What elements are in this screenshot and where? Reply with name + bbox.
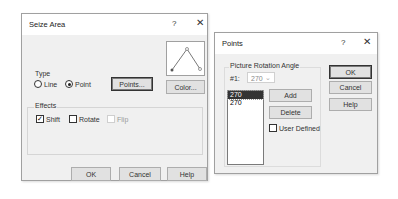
effects-group-label: Effects <box>34 102 57 109</box>
seize-area-dialog: Seize Area ? ✕ Type Line Point Points...… <box>21 13 208 181</box>
line-shape-preview-icon <box>167 42 204 75</box>
user-defined-checkbox[interactable] <box>269 124 277 132</box>
shape-preview <box>166 41 205 76</box>
help-button[interactable]: Help <box>329 98 372 111</box>
ok-button[interactable]: OK <box>71 167 111 181</box>
shift-checkbox[interactable]: ✓ <box>36 115 44 123</box>
flip-checkbox <box>107 115 115 123</box>
rotate-checkbox[interactable] <box>69 115 77 123</box>
angle-combobox[interactable]: 270 ⌄ <box>247 72 275 83</box>
close-icon[interactable]: ✕ <box>363 36 371 47</box>
point-radio[interactable] <box>65 80 73 88</box>
line-radio-label[interactable]: Line <box>44 81 57 88</box>
flip-checkbox-label: Flip <box>117 116 128 123</box>
seize-area-title: Seize Area <box>29 20 65 29</box>
rotation-angle-group-label: Picture Rotation Angle <box>229 62 300 69</box>
points-dialog: Points ? ✕ Picture Rotation Angle #1: 27… <box>214 32 378 174</box>
rotate-checkbox-label[interactable]: Rotate <box>79 116 100 123</box>
index-label: #1: <box>230 75 240 82</box>
effects-group <box>27 107 203 155</box>
list-item[interactable]: 270 <box>228 91 263 99</box>
chevron-down-icon[interactable]: ⌄ <box>265 74 271 82</box>
help-button[interactable]: Help <box>167 167 207 181</box>
user-defined-label[interactable]: User Defined <box>279 125 320 132</box>
help-icon[interactable]: ? <box>172 19 176 28</box>
points-title: Points <box>222 39 243 48</box>
angle-listbox[interactable]: 270 270 <box>227 90 264 165</box>
type-group-label: Type <box>35 70 50 77</box>
close-icon[interactable]: ✕ <box>196 17 204 28</box>
seize-area-titlebar[interactable]: Seize Area ? ✕ <box>22 14 207 35</box>
cancel-button[interactable]: Cancel <box>119 167 161 181</box>
angle-combobox-value: 270 <box>251 75 263 82</box>
add-button[interactable]: Add <box>269 89 312 102</box>
points-titlebar[interactable]: Points ? ✕ <box>215 33 377 54</box>
line-radio[interactable] <box>34 80 42 88</box>
delete-button[interactable]: Delete <box>269 106 312 119</box>
color-button[interactable]: Color... <box>166 80 205 94</box>
points-button[interactable]: Points... <box>111 77 153 91</box>
point-radio-label[interactable]: Point <box>75 81 91 88</box>
help-icon[interactable]: ? <box>341 38 345 47</box>
shift-checkbox-label[interactable]: Shift <box>46 116 60 123</box>
ok-button[interactable]: OK <box>329 65 372 79</box>
cancel-button[interactable]: Cancel <box>329 81 372 94</box>
list-item[interactable]: 270 <box>228 99 263 107</box>
